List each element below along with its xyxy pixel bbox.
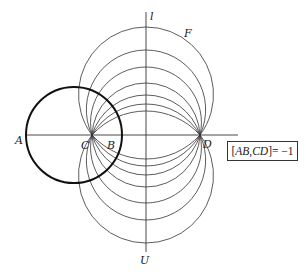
label-point-d: D: [202, 138, 212, 151]
harmonic-relation-box: [ AB , CD ] = −1: [227, 141, 298, 161]
label-point-b: B: [106, 139, 115, 152]
label-line-l: l: [150, 10, 154, 23]
relation-value: = −1: [272, 145, 294, 157]
figure-caption: [2, 272, 302, 280]
label-point-a: A: [14, 134, 23, 147]
label-line-u: U: [140, 254, 150, 267]
label-point-c: C: [81, 139, 90, 152]
label-family-f: F: [183, 27, 192, 40]
relation-pair-cd: CD: [252, 145, 268, 157]
diagram-canvas: A B C D l U F: [0, 0, 306, 280]
relation-pair-ab: AB: [235, 145, 249, 157]
